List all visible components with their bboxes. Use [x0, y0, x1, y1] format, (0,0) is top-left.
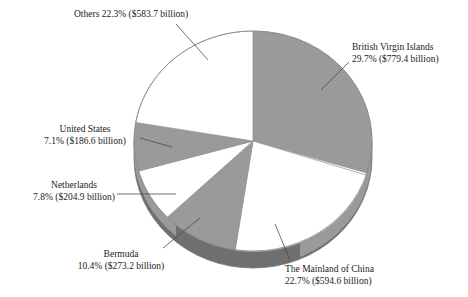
slice-label-united-states-line2: 7.1% ($186.6 billion): [30, 136, 140, 148]
slice-label-british-virgin-islands: British Virgin Islands 29.7% ($779.4 bil…: [352, 42, 439, 65]
slice-label-bermuda: Bermuda 10.4% ($273.2 billion): [62, 249, 180, 272]
pie-chart-figure: Others 22.3% ($583.7 billion) British Vi…: [0, 0, 468, 297]
slice-label-bermuda-line2: 10.4% ($273.2 billion): [62, 261, 180, 273]
slice-label-british-virgin-islands-line2: 29.7% ($779.4 billion): [352, 54, 439, 66]
slice-label-others-line1: Others 22.3% ($583.7 billion): [74, 9, 188, 21]
slice-label-mainland-china: The Mainland of China 22.7% ($594.6 bill…: [285, 264, 374, 287]
slice-label-united-states-line1: United States: [30, 124, 140, 136]
slice-label-bermuda-line1: Bermuda: [62, 249, 180, 261]
slice-label-netherlands-line2: 7.8% ($204.9 billion): [18, 192, 130, 204]
pie-top-face: [134, 31, 372, 252]
pie-slice-others[interactable]: [136, 31, 253, 141]
slice-label-mainland-china-line1: The Mainland of China: [285, 264, 374, 276]
slice-label-netherlands: Netherlands 7.8% ($204.9 billion): [18, 180, 130, 203]
slice-label-british-virgin-islands-line1: British Virgin Islands: [352, 42, 439, 54]
slice-label-netherlands-line1: Netherlands: [18, 180, 130, 192]
slice-label-united-states: United States 7.1% ($186.6 billion): [30, 124, 140, 147]
slice-label-mainland-china-line2: 22.7% ($594.6 billion): [285, 276, 374, 288]
slice-label-others: Others 22.3% ($583.7 billion): [74, 9, 188, 21]
